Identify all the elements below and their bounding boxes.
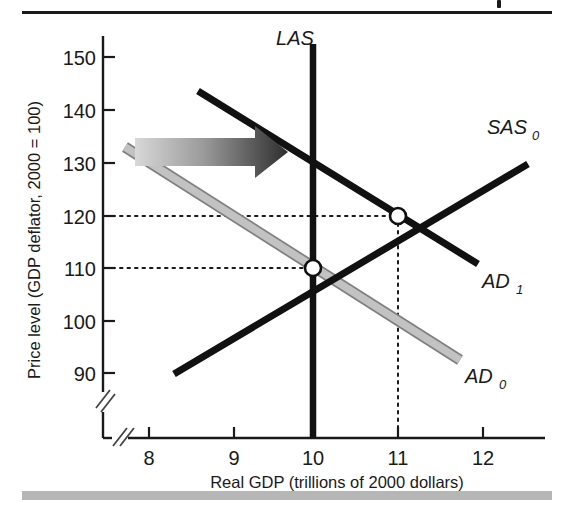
curve-label-sas0-subscript: 0 — [532, 128, 540, 143]
curve-label-ad1: AD 1 — [481, 270, 523, 297]
x-tick-label-10: 10 — [302, 447, 324, 469]
curve-label-sas0-text: SAS — [487, 116, 528, 138]
curve-label-ad1-text: AD — [481, 270, 510, 292]
y-axis-title: Price level (GDP deflator, 2000 = 100) — [25, 101, 43, 379]
curve-ad0-core — [125, 147, 460, 360]
curve-ad0 — [125, 147, 460, 360]
curve-label-ad0: AD 0 — [464, 365, 507, 392]
aggregate-demand-supply-chart: 150 140 130 120 110 100 90 8 9 10 11 12 … — [0, 0, 570, 509]
x-tick-label-9: 9 — [228, 447, 239, 469]
y-tick-labels: 150 140 130 120 110 100 90 — [63, 47, 96, 385]
equilibrium-marker-initial — [305, 260, 321, 276]
y-tick-label-110: 110 — [64, 258, 96, 280]
y-tick-label-150: 150 — [63, 47, 96, 69]
curve-label-ad0-text: AD — [464, 365, 493, 387]
y-tick-label-100: 100 — [63, 311, 96, 333]
curve-label-las: LAS — [276, 27, 314, 49]
x-tick-label-8: 8 — [143, 447, 154, 469]
y-tick-label-90: 90 — [74, 363, 96, 385]
x-axis-title: Real GDP (trillions of 2000 dollars) — [210, 473, 464, 491]
curve-ad1 — [198, 91, 478, 264]
x-tick-labels: 8 9 10 11 12 — [143, 447, 494, 469]
curve-label-ad0-subscript: 0 — [499, 377, 507, 392]
equilibrium-marker-new — [390, 208, 406, 224]
x-tick-label-12: 12 — [472, 447, 494, 469]
y-tick-label-140: 140 — [63, 100, 96, 122]
curve-label-ad1-subscript: 1 — [516, 282, 523, 297]
y-tick-label-120: 120 — [63, 206, 96, 228]
y-tick-label-130: 130 — [63, 153, 96, 175]
figure-container: 150 140 130 120 110 100 90 8 9 10 11 12 … — [0, 0, 570, 509]
curve-label-las-text: LAS — [276, 27, 314, 49]
x-tick-label-11: 11 — [388, 447, 409, 469]
curve-label-sas0: SAS 0 — [487, 116, 540, 143]
y-axis-break-marks — [96, 390, 115, 412]
